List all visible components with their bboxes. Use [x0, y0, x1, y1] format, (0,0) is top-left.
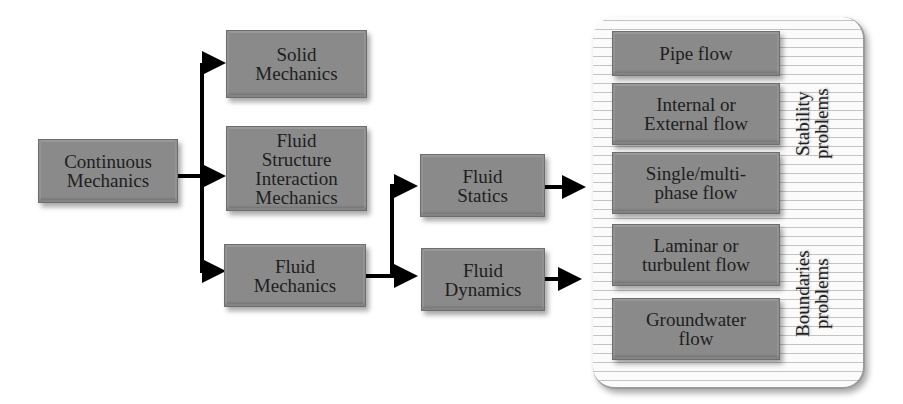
node-fluid-dynamics: Fluid Dynamics: [421, 248, 545, 311]
node-continuous-mechanics: Continuous Mechanics: [38, 139, 178, 203]
node-internal-external-flow: Internal or External flow: [612, 83, 780, 145]
problems-group: Pipe flow Internal or External flow Sing…: [593, 17, 865, 389]
node-fluid-statics: Fluid Statics: [420, 154, 545, 217]
node-groundwater-flow: Groundwater flow: [612, 298, 780, 360]
label-boundaries-problems: Boundaries problems: [793, 235, 837, 353]
node-fluid-mechanics: Fluid Mechanics: [224, 244, 366, 307]
node-pipe-flow: Pipe flow: [612, 31, 780, 76]
node-fsi-mechanics: Fluid Structure Interaction Mechanics: [226, 126, 367, 211]
node-laminar-turbulent-flow: Laminar or turbulent flow: [612, 224, 780, 286]
label-stability-problems: Stability problems: [793, 69, 837, 179]
node-solid-mechanics: Solid Mechanics: [226, 30, 367, 98]
node-single-multiphase-flow: Single/multi- phase flow: [612, 152, 780, 214]
